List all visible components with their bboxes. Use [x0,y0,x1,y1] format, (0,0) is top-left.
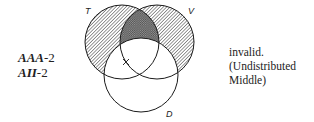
label-v: V [188,6,195,16]
syllogism-forms: AAA-2 AII-2 [18,50,55,80]
form-line-2: AII-2 [18,65,55,80]
verdict-text: invalid. (Undistributed Middle) [229,45,296,87]
form-1-figure: -2 [44,50,55,65]
verdict-line-1: invalid. [229,45,296,59]
label-d: D [166,109,173,119]
verdict-line-3: Middle) [229,73,296,87]
verdict-line-2: (Undistributed [229,59,296,73]
label-t: T [85,6,92,16]
form-2-figure: -2 [37,65,48,80]
form-line-1: AAA-2 [18,50,55,65]
form-2-mood: AII [18,65,37,80]
form-1-mood: AAA [18,50,44,65]
